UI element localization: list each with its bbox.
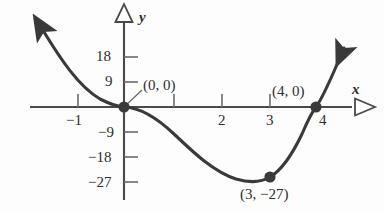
y-tick-label-minus27: −27 [88,175,111,190]
y-tick-label-9: 9 [105,74,113,89]
x-intercept-point-dot [310,101,321,112]
origin-point-label: (0, 0) [143,78,176,93]
x-axis-label: x [352,82,360,97]
y-tick-label-18: 18 [96,49,111,64]
x-tick-label-4: 4 [319,113,327,128]
x-intercept-point-label: (4, 0) [272,84,305,99]
y-axis-label: y [139,10,146,25]
origin-point-dot [118,101,129,112]
y-axis [116,4,139,200]
x-tick-label-minus1: −1 [66,113,82,128]
x-tick-label-2: 2 [218,113,226,128]
y-axis-arrowhead [116,4,133,22]
x-axis-arrowhead [355,99,375,116]
x-tick-label-3: 3 [266,113,274,128]
minimum-point-dot [264,171,275,182]
graph-figure: y x 18 9 −9 −18 −27 −1 2 3 4 (0, 0) (3, … [0,0,384,212]
y-tick-label-minus18: −18 [88,150,111,165]
y-tick-label-minus9: −9 [98,125,114,140]
minimum-point-label: (3, −27) [240,187,288,202]
coordinate-plane [0,0,384,212]
